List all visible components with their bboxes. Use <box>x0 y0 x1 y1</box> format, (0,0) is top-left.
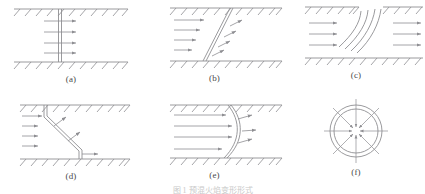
normal-arrows <box>212 20 242 56</box>
bottom-wall <box>20 159 130 166</box>
top-wall-left <box>305 7 359 14</box>
inflow-arrows <box>309 23 337 45</box>
panel-c: (c) <box>287 0 425 90</box>
bottom-wall <box>170 158 282 165</box>
top-wall <box>170 105 282 112</box>
top-wall <box>20 105 130 112</box>
panel-f: (f) <box>287 97 425 187</box>
inflow-arrows <box>174 20 204 50</box>
panel-b: (b) <box>142 0 287 90</box>
figure-caption: 图 1 预混火焰变形形式 <box>0 186 425 194</box>
panel-a-diagram <box>0 0 142 75</box>
inflow-arrows <box>174 115 232 149</box>
bottom-wall <box>14 62 128 69</box>
inward-arrows <box>344 119 368 143</box>
panel-c-diagram <box>287 0 425 75</box>
panel-f-label: (f) <box>287 167 425 177</box>
panel-d: (d) <box>0 97 142 187</box>
panel-d-label: (d) <box>0 171 142 181</box>
normal-arrows <box>54 117 80 141</box>
outflow-arrows <box>393 23 421 45</box>
panel-c-label: (c) <box>287 70 425 80</box>
panel-a-label: (a) <box>0 74 142 84</box>
inflow-arrows <box>22 116 42 146</box>
panel-b-label: (b) <box>142 73 287 83</box>
panel-e: (e) <box>142 97 287 187</box>
panel-f-diagram <box>287 97 425 169</box>
flow-arrows <box>44 21 76 53</box>
flame-front <box>59 9 62 62</box>
flame-front <box>224 105 240 158</box>
flame-front <box>44 105 82 159</box>
radial-spokes <box>324 99 388 163</box>
top-wall <box>170 8 282 15</box>
top-wall <box>14 9 128 16</box>
figure-root: (a) <box>0 0 425 194</box>
bottom-wall <box>170 61 282 68</box>
bottom-wall <box>305 58 423 65</box>
top-wall-right <box>383 7 423 14</box>
panel-a: (a) <box>0 0 142 90</box>
panel-d-diagram <box>0 97 142 172</box>
flame-arcs <box>339 9 381 53</box>
panel-b-diagram <box>142 0 287 75</box>
panel-e-label: (e) <box>142 170 287 180</box>
panel-e-diagram <box>142 97 287 172</box>
